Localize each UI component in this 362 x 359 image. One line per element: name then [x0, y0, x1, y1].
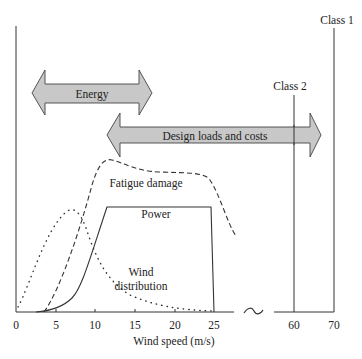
wind-classes-diagram: Energy Design loads and costs Class 1 Cl…	[0, 0, 362, 359]
tick-0: 0	[13, 319, 19, 331]
tick-15: 15	[129, 319, 141, 331]
power-curve	[36, 207, 214, 312]
design-loads-label: Design loads and costs	[162, 130, 268, 143]
tick-10: 10	[89, 319, 101, 331]
class2-label: Class 2	[273, 80, 307, 92]
energy-label: Energy	[75, 88, 108, 101]
power-label: Power	[141, 208, 171, 220]
tick-5: 5	[53, 319, 59, 331]
x-axis-label: Wind speed (m/s)	[133, 335, 214, 348]
wind-label-line2: distribution	[114, 280, 167, 292]
class1-label: Class 1	[320, 14, 354, 26]
x-tick-labels: 0 5 10 15 20 25 60 70	[13, 319, 340, 331]
wind-distribution-curve	[18, 210, 214, 311]
tick-70: 70	[328, 319, 340, 331]
tick-60: 60	[288, 319, 300, 331]
fatigue-damage-label: Fatigue damage	[109, 177, 182, 190]
tick-20: 20	[169, 319, 181, 331]
wind-label-line1: Wind	[128, 266, 153, 278]
axis-break-icon	[244, 308, 263, 314]
tick-25: 25	[208, 319, 220, 331]
